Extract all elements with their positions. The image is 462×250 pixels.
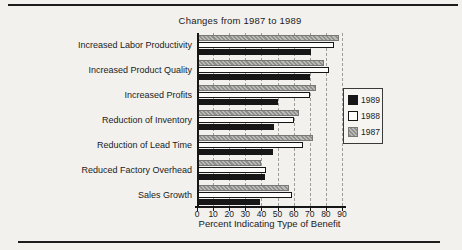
bar-1988 xyxy=(197,192,292,198)
bar-1988 xyxy=(197,67,329,73)
bar-1989 xyxy=(197,149,273,155)
y-axis-line xyxy=(197,33,199,207)
bar-1987 xyxy=(197,35,339,41)
legend-item-1987: 1987 xyxy=(348,127,382,137)
legend-swatch-1987 xyxy=(348,127,358,137)
legend-item-1989: 1989 xyxy=(348,95,382,105)
legend-swatch-1988 xyxy=(348,111,358,121)
bar-1989 xyxy=(197,174,265,180)
bar-1989 xyxy=(197,74,310,80)
category-label: Reduction of Lead Time xyxy=(0,139,192,151)
bar-1987 xyxy=(197,160,261,166)
bottom-rule xyxy=(18,241,440,243)
legend-item-1988: 1988 xyxy=(348,111,382,121)
x-axis-label: Percent Indicating Type of Benefit xyxy=(137,218,402,229)
top-rule xyxy=(8,4,458,6)
bar-1989 xyxy=(197,49,311,55)
gridline-70 xyxy=(310,33,311,206)
bar-1987 xyxy=(197,110,299,116)
bar-1988 xyxy=(197,167,266,173)
category-label: Increased Labor Productivity xyxy=(0,39,192,51)
bar-1987 xyxy=(197,85,316,91)
legend-label: 1987 xyxy=(361,127,380,137)
chart-title: Changes from 1987 to 1989 xyxy=(60,15,420,26)
x-axis-line xyxy=(195,206,346,208)
bar-1989 xyxy=(197,124,274,130)
gridline-60 xyxy=(294,33,295,206)
legend: 198919881987 xyxy=(343,88,383,144)
category-label: Increased Product Quality xyxy=(0,64,192,76)
legend-label: 1988 xyxy=(361,111,380,121)
bar-1989 xyxy=(197,199,260,205)
category-label: Reduced Factory Overhead xyxy=(0,164,192,176)
bar-1987 xyxy=(197,60,324,66)
category-label: Sales Growth xyxy=(0,189,192,201)
bar-1987 xyxy=(197,185,289,191)
legend-label: 1989 xyxy=(361,95,380,105)
scanned-chart-page: Changes from 1987 to 1989 Increased Labo… xyxy=(0,0,462,250)
bar-1989 xyxy=(197,99,278,105)
bar-1987 xyxy=(197,135,313,141)
legend-swatch-1989 xyxy=(348,95,358,105)
bar-1988 xyxy=(197,92,310,98)
category-label: Reduction of Inventory xyxy=(0,114,192,126)
bar-1988 xyxy=(197,142,303,148)
category-label: Increased Profits xyxy=(0,89,192,101)
gridline-80 xyxy=(326,33,327,206)
bar-1988 xyxy=(197,42,334,48)
bar-1988 xyxy=(197,117,294,123)
